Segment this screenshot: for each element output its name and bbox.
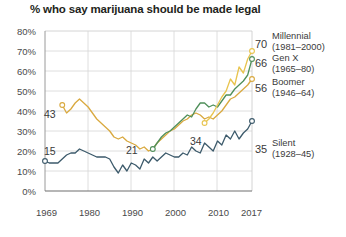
marker-start-boomer (60, 103, 65, 108)
legend-label-genx: Gen X (272, 53, 314, 64)
marker-end-silent (250, 119, 255, 124)
series-lines (45, 51, 252, 173)
annotation-boomer-start: 43 (44, 108, 56, 120)
legend-entry-millennial: Millennial (1981–2000) (272, 31, 325, 52)
legend-label-boomer: Boomer (272, 77, 314, 88)
end-value-genx: 66 (255, 57, 267, 69)
marker-end-genx (250, 57, 255, 62)
legend-years-millennial: (1981–2000) (272, 42, 325, 53)
annotation-genx-start: 21 (126, 144, 138, 156)
annotation-silent-start: 15 (44, 145, 56, 157)
series-line-silent (45, 121, 252, 173)
marker-end-millennial (250, 49, 255, 54)
legend-years-genx: (1965–80) (272, 64, 314, 75)
legend-years-boomer: (1946–64) (272, 88, 314, 99)
end-value-millennial: 70 (255, 38, 267, 50)
end-value-silent: 35 (255, 143, 267, 155)
end-value-boomer: 56 (255, 82, 267, 94)
legend-entry-boomer: Boomer (1946–64) (272, 77, 314, 98)
series-endpoint-markers (43, 49, 255, 164)
legend-label-millennial: Millennial (272, 31, 325, 42)
legend-entry-silent: Silent (1928–45) (272, 138, 314, 159)
chart-container: % who say marijuana should be made legal… (0, 0, 346, 237)
legend-entry-genx: Gen X (1965–80) (272, 53, 314, 74)
legend-years-silent: (1928–45) (272, 149, 314, 160)
annotation-millennial-start: 34 (190, 135, 202, 147)
marker-start-millennial (202, 121, 207, 126)
legend-label-silent: Silent (272, 138, 314, 149)
marker-start-genx (150, 147, 155, 152)
marker-start-silent (43, 159, 48, 164)
marker-end-boomer (250, 77, 255, 82)
